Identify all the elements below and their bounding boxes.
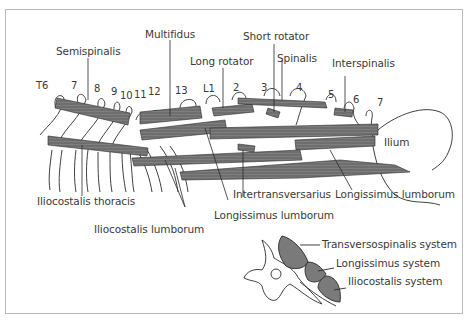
- interspinalis-muscle: [334, 108, 353, 117]
- vertebra-label-t12: 12: [148, 87, 161, 97]
- longissimus-band-middle: [210, 124, 378, 139]
- longissimus-lumborum-muscle: [295, 136, 375, 150]
- muscle-bands: [48, 98, 410, 180]
- iliocostalis-lumborum-muscle: [132, 150, 302, 166]
- vertebra-label-t11: 11: [134, 90, 147, 100]
- long-rotator-muscle: [212, 104, 254, 116]
- vertebra-label-l1: L1: [203, 84, 215, 94]
- vertebra-label-t6: T6: [36, 81, 48, 91]
- multifidus-muscle: [140, 106, 202, 124]
- vertebra-label-l7: 7: [377, 98, 383, 108]
- label-long-rotator: Long rotator: [190, 56, 253, 67]
- label-longissimus-lumborum-right: Longissimus lumborum: [335, 189, 455, 200]
- label-transversospinalis-system: Transversospinalis system: [322, 239, 457, 250]
- vertebra-label-t7: 7: [71, 81, 77, 91]
- label-iliocostalis-system: Iliocostalis system: [348, 276, 442, 287]
- label-iliocostalis-lumborum: Iliocostalis lumborum: [94, 224, 204, 235]
- vertebra-label-t9: 9: [111, 87, 117, 97]
- short-rotator-muscle: [266, 108, 280, 118]
- intertransversarius-muscle: [238, 144, 255, 152]
- vertebra-label-l2: 2: [233, 83, 239, 93]
- vertebra-label-t13: 13: [175, 86, 188, 96]
- label-interspinalis: Interspinalis: [332, 58, 395, 69]
- semispinalis-muscle: [55, 98, 130, 125]
- label-iliocostalis-thoracis: Iliocostalis thoracis: [37, 196, 135, 207]
- vertebra-label-l6: 6: [353, 95, 359, 105]
- label-semispinalis: Semispinalis: [56, 46, 121, 57]
- label-longissimus-lumborum-center: Longissimus lumborum: [214, 210, 334, 221]
- vertebrae-outlines: [40, 89, 373, 147]
- vertebra-label-t8: 8: [94, 84, 100, 94]
- label-longissimus-system: Longissimus system: [336, 258, 440, 269]
- label-ilium: Ilium: [384, 137, 409, 148]
- vertebra-label-t10: 10: [120, 91, 133, 101]
- label-intertransversarius: Intertransversarius: [233, 189, 331, 200]
- vertebra-label-l3: 3: [261, 83, 267, 93]
- vertebra-label-l5: 5: [328, 90, 334, 100]
- label-spinalis: Spinalis: [277, 53, 317, 64]
- label-short-rotator: Short rotator: [243, 31, 309, 42]
- label-multifidus: Multifidus: [145, 29, 195, 40]
- vertebra-label-l4: 4: [296, 83, 302, 93]
